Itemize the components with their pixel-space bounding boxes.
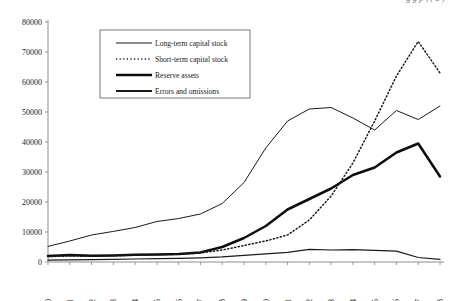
y-tick-label: 80000 — [22, 18, 42, 27]
x-axis-ticks: 1980198119821983198419851986198719881989… — [44, 262, 445, 301]
legend-item-label: Errors and omissions — [155, 87, 219, 96]
chart-legend: Long-term capital stockShort-term capita… — [100, 30, 250, 98]
y-tick-label: 20000 — [22, 198, 42, 207]
y-axis: 0100002000030000400005000060000700008000… — [22, 18, 48, 267]
y-tick-label: 40000 — [22, 138, 42, 147]
legend-item-label: Reserve assets — [155, 71, 199, 80]
legend-item-label: Short-term capital stock — [155, 55, 228, 64]
legend-item-label: Long-term capital stock — [155, 39, 228, 48]
y-tick-label: 10000 — [22, 228, 42, 237]
y-tick-label: 30000 — [22, 168, 42, 177]
y-tick-label: 70000 — [22, 48, 42, 57]
line-chart: 0100002000030000400005000060000700008000… — [0, 0, 451, 301]
figure-caption-text: g g p , ( $ ) — [406, 0, 445, 3]
y-tick-label: 50000 — [22, 108, 42, 117]
y-tick-label: 0 — [38, 258, 42, 267]
x-axis: 1980198119821983198419851986198719881989… — [44, 262, 445, 301]
y-axis-ticks: 0100002000030000400005000060000700008000… — [22, 18, 48, 267]
series-line-long-term-capital-stock — [48, 106, 440, 246]
series-line-reserve-assets — [48, 144, 440, 257]
figure-caption-cropped: g g p , ( $ ) — [0, 0, 451, 5]
y-tick-label: 60000 — [22, 78, 42, 87]
figure-container: g g p , ( $ ) 01000020000300004000050000… — [0, 0, 451, 301]
